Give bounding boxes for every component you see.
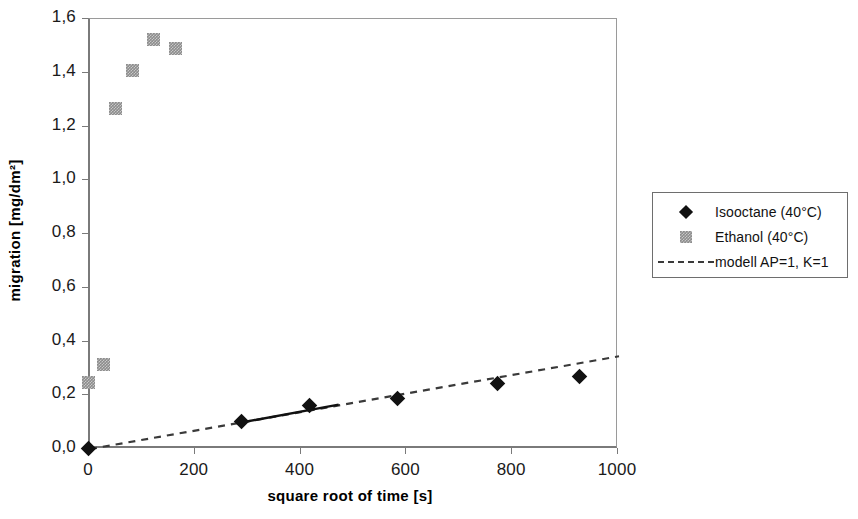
plot-area [88,18,617,448]
y-tick-label: 1,4 [10,61,76,81]
x-tick-mark [405,448,406,454]
y-tick-mark [82,233,88,234]
dashed-line-icon [657,249,715,274]
data-point-ethanol [147,33,160,46]
data-point-ethanol [109,102,122,115]
square-marker-icon [657,224,715,249]
x-tick-mark [300,448,301,454]
x-axis-title: square root of time [s] [0,487,700,504]
y-tick-mark [82,341,88,342]
legend-label-ethanol: Ethanol (40°C) [715,229,808,245]
legend-label-isooctane: Isooctane (40°C) [715,204,822,220]
data-point-ethanol [126,64,139,77]
data-point-ethanol [97,358,110,371]
series-lines-layer [90,19,619,449]
legend-item-ethanol: Ethanol (40°C) [653,224,847,249]
isooctane-fit-line [243,405,338,422]
y-tick-mark [82,394,88,395]
model-trendline [90,356,619,449]
y-tick-label: 0,2 [10,383,76,403]
data-point-ethanol [169,42,182,55]
chart-figure: 0,00,20,40,60,81,01,21,41,6 020040060080… [0,0,858,519]
x-tick-mark [511,448,512,454]
y-tick-mark [82,126,88,127]
y-tick-mark [82,287,88,288]
legend-item-model: modell AP=1, K=1 [653,249,847,274]
y-tick-label: 0,4 [10,330,76,350]
y-tick-mark [82,179,88,180]
data-point-ethanol [82,376,95,389]
y-tick-mark [82,18,88,19]
chart-legend: Isooctane (40°C) Ethanol (40°C) modell A… [652,192,848,278]
legend-item-isooctane: Isooctane (40°C) [653,199,847,224]
y-tick-label: 0,0 [10,437,76,457]
x-tick-label: 400 [250,460,350,480]
x-tick-label: 200 [144,460,244,480]
x-tick-mark [617,448,618,454]
x-tick-label: 1000 [567,460,667,480]
diamond-marker-icon [657,199,715,224]
x-tick-mark [194,448,195,454]
legend-label-model: modell AP=1, K=1 [715,254,829,270]
y-tick-label: 1,6 [10,7,76,27]
x-tick-label: 600 [355,460,455,480]
x-tick-label: 800 [461,460,561,480]
y-tick-mark [82,72,88,73]
y-axis-title: migration [mg/dm²] [6,131,23,331]
x-tick-label: 0 [38,460,138,480]
